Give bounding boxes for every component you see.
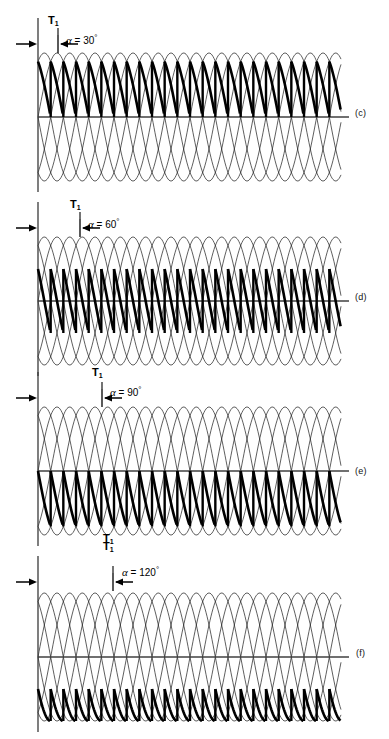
firing-angle-label-60: α = 60° (88, 217, 120, 230)
arrow-markers-120 (0, 552, 389, 734)
panel-e (0, 368, 389, 548)
extra-thyristor-label-0: T1 (103, 532, 114, 544)
panel-tag-c: (c) (355, 108, 366, 118)
panel-f (0, 552, 389, 734)
firing-angle-label-30: α = 30° (66, 33, 98, 46)
panel-tag-e: (e) (355, 466, 367, 476)
firing-angle-label-90: α = 90° (110, 385, 142, 398)
thyristor-label-90: T1 (92, 366, 103, 378)
thyristor-label-30: T1 (48, 14, 59, 26)
arrow-markers-90 (0, 368, 389, 548)
arrow-markers-30 (0, 14, 389, 194)
thyristor-label-60: T1 (70, 198, 81, 210)
waveform-figure: (c)T1α = 30°(d)T1α = 60°(e)T1α = 90°(f)T… (0, 0, 389, 739)
panel-d (0, 198, 389, 378)
panel-tag-f: (f) (356, 648, 365, 658)
panel-c (0, 14, 389, 194)
arrow-markers-60 (0, 198, 389, 378)
panel-tag-d: (d) (355, 292, 367, 302)
firing-angle-label-120: α = 120° (122, 565, 159, 578)
